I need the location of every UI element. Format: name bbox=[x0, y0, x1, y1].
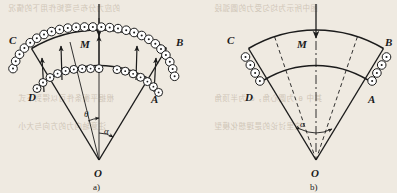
angle-theta-arc-a bbox=[88, 118, 99, 121]
label-theta-a: θ bbox=[84, 109, 89, 119]
label-o-a: O bbox=[94, 167, 102, 179]
label-alpha-b: α bbox=[300, 119, 305, 129]
rollers-outer-a bbox=[9, 23, 179, 81]
label-d-b: D bbox=[244, 91, 253, 103]
panel-a: C B D A M O θ α a) bbox=[9, 4, 184, 192]
label-b-b: B bbox=[384, 36, 392, 48]
label-o-b: O bbox=[311, 167, 319, 179]
caption-a: a) bbox=[93, 182, 100, 192]
label-d-a: D bbox=[27, 91, 36, 103]
label-m-b: M bbox=[296, 38, 308, 50]
label-b-a: B bbox=[175, 36, 183, 48]
label-a-a: A bbox=[150, 93, 158, 105]
label-m-a: M bbox=[79, 38, 91, 50]
label-a-b: A bbox=[367, 93, 375, 105]
figure-svg: C B D A M O θ α a) bbox=[0, 0, 397, 193]
figure-container: 的应力分布与弯矩作用下的情况 图中所示为均匀受力的圆弧段 根据平衡条件可以得到下… bbox=[0, 0, 397, 193]
caption-b: b) bbox=[310, 182, 318, 192]
panel-b: C B D A M O α b) bbox=[227, 4, 392, 192]
label-alpha-a: α bbox=[104, 126, 109, 136]
label-c-b: C bbox=[227, 34, 235, 46]
radial-theta-a bbox=[70, 42, 99, 160]
label-c-a: C bbox=[9, 34, 17, 46]
rollers-inner-a bbox=[33, 65, 163, 97]
